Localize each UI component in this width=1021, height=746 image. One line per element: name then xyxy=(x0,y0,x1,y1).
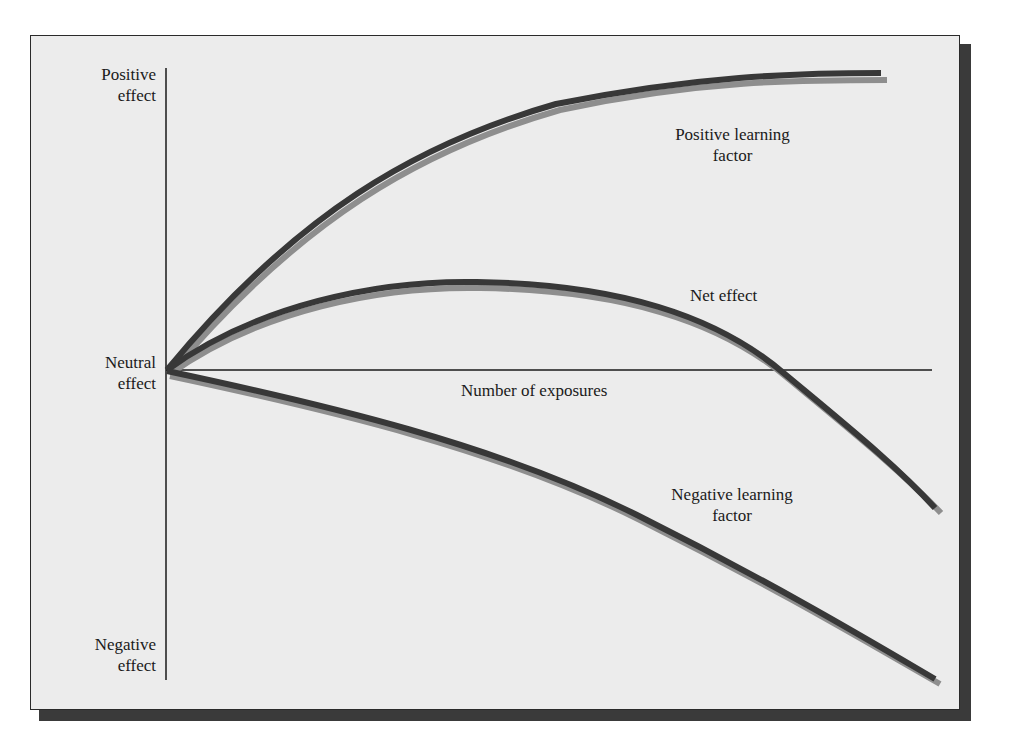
y-label-positive-line2: effect xyxy=(60,85,156,106)
y-label-negative-line2: effect xyxy=(60,655,156,676)
positive-learning-label: Positive learning factor xyxy=(660,124,805,166)
positive-learning-curve xyxy=(167,73,881,370)
y-label-neutral-line1: Neutral xyxy=(60,352,156,373)
y-label-negative-line1: Negative xyxy=(60,634,156,655)
y-label-positive: Positive effect xyxy=(60,64,156,106)
negative-learning-label-line2: factor xyxy=(652,505,812,526)
net-effect-label: Net effect xyxy=(690,285,757,306)
y-label-positive-line1: Positive xyxy=(60,64,156,85)
x-axis-label: Number of exposures xyxy=(461,380,607,401)
positive-learning-label-line1: Positive learning xyxy=(660,124,805,145)
negative-learning-label-line1: Negative learning xyxy=(652,484,812,505)
negative-learning-curve xyxy=(167,371,935,679)
y-label-negative: Negative effect xyxy=(60,634,156,676)
positive-learning-label-line2: factor xyxy=(660,145,805,166)
y-label-neutral: Neutral effect xyxy=(60,352,156,394)
y-label-neutral-line2: effect xyxy=(60,373,156,394)
negative-learning-label: Negative learning factor xyxy=(652,484,812,526)
negative-learning-curve-shadow xyxy=(170,376,940,684)
